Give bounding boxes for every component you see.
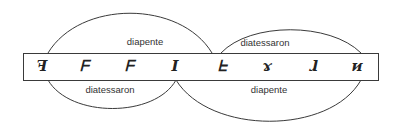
label-upper-left: diapente <box>127 36 163 47</box>
label-upper-right: diatessaron <box>240 37 289 48</box>
note-symbol-7: ɺ <box>310 56 319 76</box>
note-symbol-2: ᖴ <box>80 56 89 76</box>
note-symbol-4: I <box>171 56 178 76</box>
note-symbol-3: ᖴ <box>125 56 134 76</box>
note-symbol-1: ꟻ <box>37 56 48 76</box>
note-box <box>24 54 379 81</box>
note-symbol-5: ᖶ <box>218 56 227 76</box>
label-lower-left: diatessaron <box>85 84 134 95</box>
label-lower-right: diapente <box>251 84 287 95</box>
diagram-canvas <box>0 0 396 128</box>
note-symbol-6: ɤ <box>262 56 271 76</box>
arc-upper-left <box>48 13 212 53</box>
note-symbol-8: ᴎ <box>351 56 362 76</box>
